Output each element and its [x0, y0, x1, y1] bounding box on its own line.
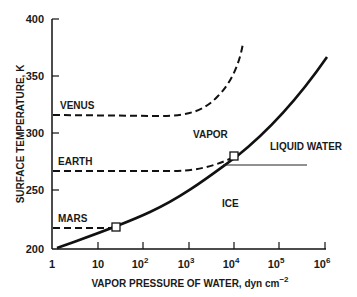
earth-label: EARTH: [58, 156, 92, 167]
mars-label: MARS: [58, 213, 88, 224]
y-tick-label: 400: [26, 13, 44, 25]
y-tick-label: 250: [26, 184, 44, 196]
ice-label: ICE: [222, 198, 239, 209]
y-axis-title: SURFACE TEMPERATURE, K: [15, 64, 26, 203]
x-tick-label: 105: [268, 256, 285, 270]
vapor-label: VAPOR: [193, 129, 229, 140]
x-tick-label: 103: [178, 256, 195, 270]
x-tick-label: 106: [314, 256, 331, 270]
y-tick-label: 350: [26, 70, 44, 82]
y-tick-label: 300: [26, 127, 44, 139]
x-ticks: 1 10 102 103 104 105 106: [49, 242, 331, 270]
y-tick-label: 200: [26, 243, 44, 255]
x-tick-label: 1: [49, 258, 55, 270]
x-axis-title: VAPOR PRESSURE OF WATER, dyn cm−2: [91, 275, 289, 289]
saturation-curve: [57, 57, 327, 248]
x-tick-label: 102: [132, 256, 149, 270]
earth-marker: [230, 152, 238, 160]
liquid-water-label: LIQUID WATER: [270, 141, 343, 152]
mars-marker: [112, 223, 120, 231]
y-ticks: 400 350 300 250 200: [26, 13, 59, 255]
x-tick-label: 10: [92, 258, 104, 270]
chart: 400 350 300 250 200 1 10 102 103 104 105…: [0, 0, 357, 297]
venus-label: VENUS: [60, 100, 95, 111]
x-tick-label: 104: [223, 256, 240, 270]
